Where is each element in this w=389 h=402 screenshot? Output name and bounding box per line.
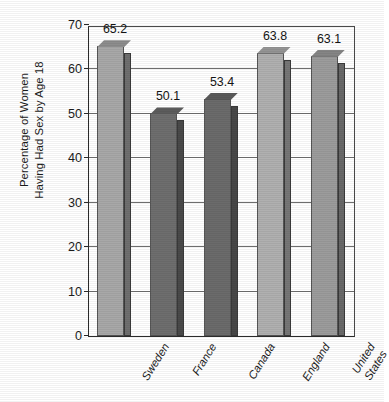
y-axis-tick-label: 30 [42, 196, 82, 210]
bar-side-face [124, 53, 131, 336]
bar-side-face [177, 120, 184, 336]
bar-side-face [284, 60, 291, 336]
x-axis-tick-label-line: France [189, 341, 219, 378]
x-axis-tick-label-line: Canada [245, 341, 278, 382]
bar-front-face [150, 113, 177, 336]
y-axis-title-line-2: Having Had Sex by Age 18 [32, 61, 47, 198]
x-axis-tick-label-line: Sweden [139, 341, 172, 383]
bar-value-label: 63.1 [310, 32, 348, 46]
bar-value-label: 65.2 [96, 22, 134, 36]
bar-front-face [204, 99, 231, 336]
x-axis-tick-label-line: England [299, 341, 333, 384]
bar-front-face [97, 46, 124, 336]
y-axis-tick-mark [84, 246, 89, 247]
y-axis-tick-mark [84, 68, 89, 69]
bar-value-label: 50.1 [149, 89, 187, 103]
y-axis-tick-mark [84, 202, 89, 203]
y-axis-tick-mark [84, 24, 89, 25]
bar-top-face [97, 40, 131, 47]
bar-side-face [338, 63, 345, 336]
x-axis-tick-label: France [189, 341, 219, 378]
bar-top-face [257, 47, 291, 54]
x-axis-tick-label: Canada [245, 341, 278, 382]
x-axis-tick-label: England [299, 341, 333, 384]
y-axis-tick-label: 0 [42, 329, 82, 343]
bar-front-face [257, 53, 284, 336]
y-axis-title-line-1: Percentage of Women [17, 73, 32, 187]
bar-value-label: 53.4 [203, 75, 241, 89]
y-axis-tick-mark [84, 291, 89, 292]
y-axis-tick-mark [84, 113, 89, 114]
y-axis-tick-mark [84, 157, 89, 158]
y-axis-title: Percentage of Women Having Had Sex by Ag… [12, 5, 52, 255]
x-axis-tick-label: UnitedStates [349, 341, 389, 383]
bar-top-face [204, 93, 238, 100]
bar-value-label: 63.8 [256, 29, 294, 43]
y-axis-tick-label: 20 [42, 240, 82, 254]
y-axis-tick-label: 50 [42, 107, 82, 121]
bar-top-face [311, 50, 345, 57]
bar-front-face [311, 56, 338, 336]
x-axis-tick-label: Sweden [139, 341, 172, 383]
y-axis-tick-mark [84, 335, 89, 336]
y-axis-tick-label: 60 [42, 62, 82, 76]
y-axis-tick-label: 40 [42, 151, 82, 165]
y-axis-tick-label: 10 [42, 285, 82, 299]
bar-side-face [231, 106, 238, 336]
y-axis-tick-label: 70 [42, 18, 82, 32]
plot-area: 65.250.153.463.863.1 [88, 26, 355, 337]
